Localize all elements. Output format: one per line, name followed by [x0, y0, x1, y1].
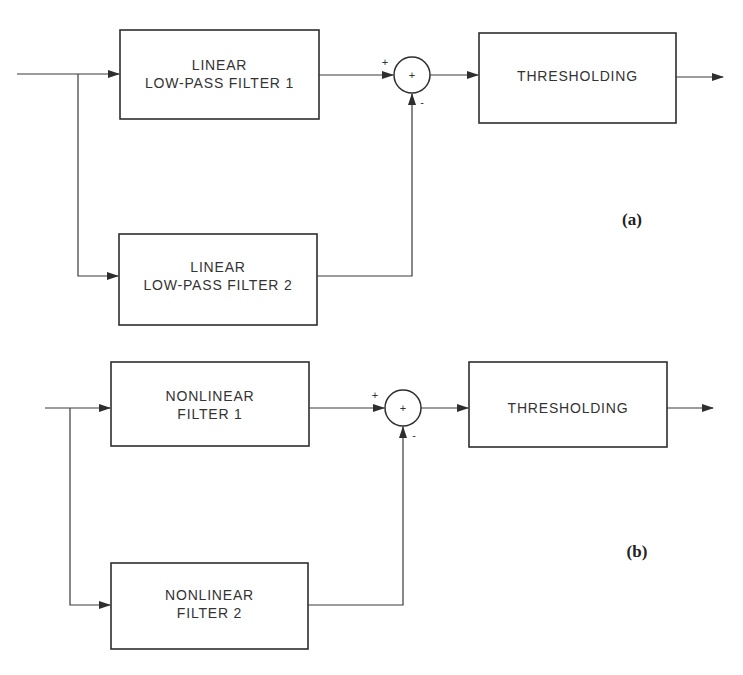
block-diagram-canvas: LINEAR LOW-PASS FILTER 1 + + - THRESHOLD… [0, 0, 743, 675]
filter1-block: NONLINEAR FILTER 1 [111, 362, 309, 446]
summing-junction: + + - [372, 389, 421, 441]
filter2-block: NONLINEAR FILTER 2 [111, 563, 308, 649]
filter2-block: LINEAR LOW-PASS FILTER 2 [119, 234, 317, 325]
branch-line [78, 74, 118, 276]
filter1-label-line1: NONLINEAR [166, 388, 255, 404]
diagram-b: NONLINEAR FILTER 1 + + - THRESHOLDING NO… [45, 362, 713, 649]
summer-symbol: + [400, 402, 406, 414]
filter2-output-line [308, 427, 403, 605]
filter1-label-line2: LOW-PASS FILTER 1 [145, 75, 294, 91]
thresholding-block: THRESHOLDING [469, 362, 667, 447]
diagram-a: LINEAR LOW-PASS FILTER 1 + + - THRESHOLD… [17, 30, 723, 325]
filter2-label-line2: LOW-PASS FILTER 2 [144, 277, 293, 293]
filter2-label-line2: FILTER 2 [177, 605, 242, 621]
filter2-label-line1: NONLINEAR [165, 587, 254, 603]
filter2-output-line [317, 94, 412, 276]
diagram-tag-b: (b) [627, 542, 648, 561]
branch-line [70, 408, 110, 605]
minus-sign: - [420, 96, 424, 108]
plus-sign: + [372, 389, 378, 401]
plus-sign: + [382, 56, 388, 68]
filter2-label-line1: LINEAR [190, 259, 245, 275]
summing-junction: + + - [382, 56, 430, 108]
thresholding-label: THRESHOLDING [508, 400, 629, 416]
minus-sign: - [412, 429, 416, 441]
filter1-label-line1: LINEAR [192, 57, 247, 73]
summer-symbol: + [409, 69, 415, 81]
diagram-tag-a: (a) [622, 210, 642, 229]
thresholding-label: THRESHOLDING [517, 68, 638, 84]
thresholding-block: THRESHOLDING [479, 33, 676, 123]
filter1-label-line2: FILTER 1 [177, 406, 242, 422]
filter1-block: LINEAR LOW-PASS FILTER 1 [120, 30, 319, 119]
